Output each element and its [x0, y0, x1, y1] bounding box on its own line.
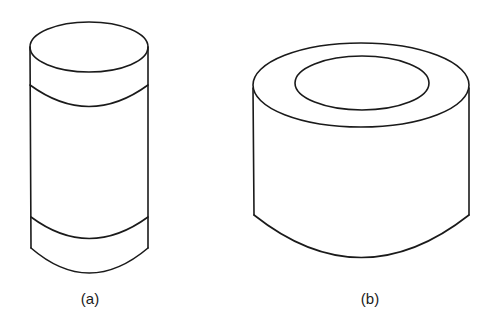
- figure-canvas: [0, 0, 500, 334]
- cylinder-b-left-edge: [253, 88, 254, 215]
- cylinder-a-lower-band: [31, 217, 148, 239]
- cylinder-b: [253, 43, 469, 258]
- cylinder-a-top-ellipse: [30, 22, 148, 72]
- cylinder-a-bottom-curve: [31, 248, 148, 273]
- cylinder-a-upper-band: [30, 85, 148, 107]
- label-a: (a): [81, 290, 99, 307]
- cylinder-a: [30, 22, 148, 273]
- cylinder-b-inner-ellipse: [295, 56, 429, 110]
- label-b: (b): [361, 290, 379, 307]
- cylinder-b-bottom-curve: [254, 215, 469, 258]
